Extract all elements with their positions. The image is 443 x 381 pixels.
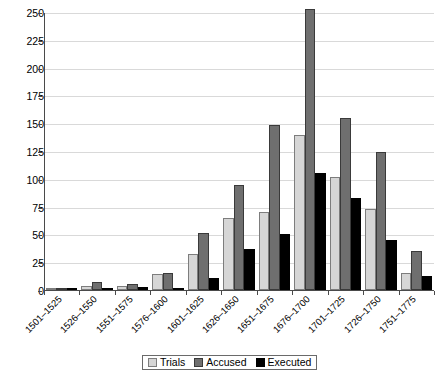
legend: TrialsAccusedExecuted: [142, 355, 317, 370]
y-axis-tick-mark: [38, 124, 42, 125]
x-axis-tick-label: 1676–1700: [271, 294, 311, 334]
bar-trials: [152, 274, 163, 290]
bar-accused: [340, 118, 351, 290]
bar-executed: [138, 287, 149, 290]
legend-label: Executed: [268, 357, 312, 368]
legend-entry-executed: Executed: [256, 357, 312, 368]
bar-executed: [209, 278, 220, 290]
x-axis-tick-label: 1626–1650: [200, 294, 240, 334]
y-axis-tick-mark: [38, 13, 42, 14]
x-axis-tick-label: 1601–1625: [165, 294, 205, 334]
bar-trials: [330, 177, 341, 290]
legend-swatch-trials-icon: [148, 358, 157, 367]
bar-trials: [46, 288, 57, 290]
x-axis-labels: 1501–15251526–15501551–15751576–16001601…: [0, 291, 443, 351]
x-axis-tick-label: 1701–1725: [307, 294, 347, 334]
x-axis-tick-label: 1551–1575: [94, 294, 134, 334]
bar-accused: [269, 125, 280, 290]
bar-accused: [92, 282, 103, 290]
bar-executed: [386, 240, 397, 290]
bar-group: [151, 13, 186, 290]
y-axis-tick-mark: [38, 235, 42, 236]
bar-group: [400, 13, 435, 290]
bar-group: [45, 13, 80, 290]
bar-accused: [234, 185, 245, 290]
bar-group: [80, 13, 115, 290]
bar-group: [329, 13, 364, 290]
bar-trials: [223, 218, 234, 290]
bar-executed: [315, 173, 326, 290]
bar-executed: [422, 276, 433, 290]
bar-executed: [67, 288, 78, 290]
bar-accused: [376, 152, 387, 290]
legend-label: Trials: [160, 357, 185, 368]
plot-area: [44, 13, 434, 291]
bar-group: [116, 13, 151, 290]
bar-accused: [411, 251, 422, 290]
bar-accused: [198, 233, 209, 290]
x-axis-tick-label: 1501–1525: [23, 294, 63, 334]
x-axis-tick-label: 1651–1675: [236, 294, 276, 334]
bar-group: [364, 13, 399, 290]
bar-executed: [351, 198, 362, 290]
bar-group: [293, 13, 328, 290]
bar-executed: [244, 249, 255, 290]
bar-trials: [259, 212, 270, 290]
bar-executed: [173, 288, 184, 290]
legend-entry-accused: Accused: [194, 357, 246, 368]
legend-swatch-executed-icon: [256, 358, 265, 367]
x-axis-tick-label: 1726–1750: [342, 294, 382, 334]
y-axis-tick-mark: [38, 41, 42, 42]
y-axis-tick-mark: [38, 208, 42, 209]
bar-trials: [117, 286, 128, 290]
bar-executed: [280, 234, 291, 290]
bar-trials: [81, 286, 92, 290]
legend-label: Accused: [206, 357, 246, 368]
y-axis-tick-mark: [38, 180, 42, 181]
y-axis-tick-mark: [38, 69, 42, 70]
y-axis-tick-mark: [38, 263, 42, 264]
bar-trials: [401, 273, 412, 290]
legend-entry-trials: Trials: [148, 357, 185, 368]
bars-layer: [45, 13, 434, 290]
legend-swatch-accused-icon: [194, 358, 203, 367]
x-axis-tick-label: 1576–1600: [129, 294, 169, 334]
bar-group: [258, 13, 293, 290]
bar-accused: [163, 273, 174, 290]
bar-accused: [305, 9, 316, 290]
bar-chart: 0255075100125150175200225250 1501–152515…: [0, 0, 443, 381]
bar-trials: [294, 135, 305, 290]
x-axis-tick-label: 1526–1550: [58, 294, 98, 334]
bar-trials: [365, 209, 376, 290]
bar-executed: [102, 288, 113, 290]
bar-accused: [127, 284, 138, 290]
x-axis-tick-label: 1751–1775: [377, 294, 417, 334]
y-axis-tick-mark: [38, 152, 42, 153]
y-axis: 0255075100125150175200225250: [0, 13, 44, 291]
bar-group: [187, 13, 222, 290]
y-axis-tick-mark: [38, 96, 42, 97]
bar-accused: [56, 288, 67, 290]
bar-trials: [188, 254, 199, 290]
bar-group: [222, 13, 257, 290]
